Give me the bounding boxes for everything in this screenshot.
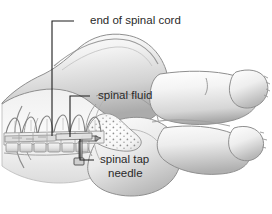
spinal-cord [5,135,57,142]
label-spinal-tap-needle-line1: spinal tap [100,153,149,165]
label-spinal-tap-needle-line2: needle [108,167,143,179]
label-end-of-spinal-cord: end of spinal cord [90,14,181,26]
spinal-tap-illustration: end of spinal cord spinal fluid spinal t… [0,0,272,214]
needle-overlay [56,133,92,140]
upper-foot [229,70,267,108]
lower-foot [229,126,264,160]
label-spinal-fluid: spinal fluid [98,89,152,101]
illustration-canvas: end of spinal cord spinal fluid spinal t… [0,0,272,214]
needle-hub [74,158,84,165]
